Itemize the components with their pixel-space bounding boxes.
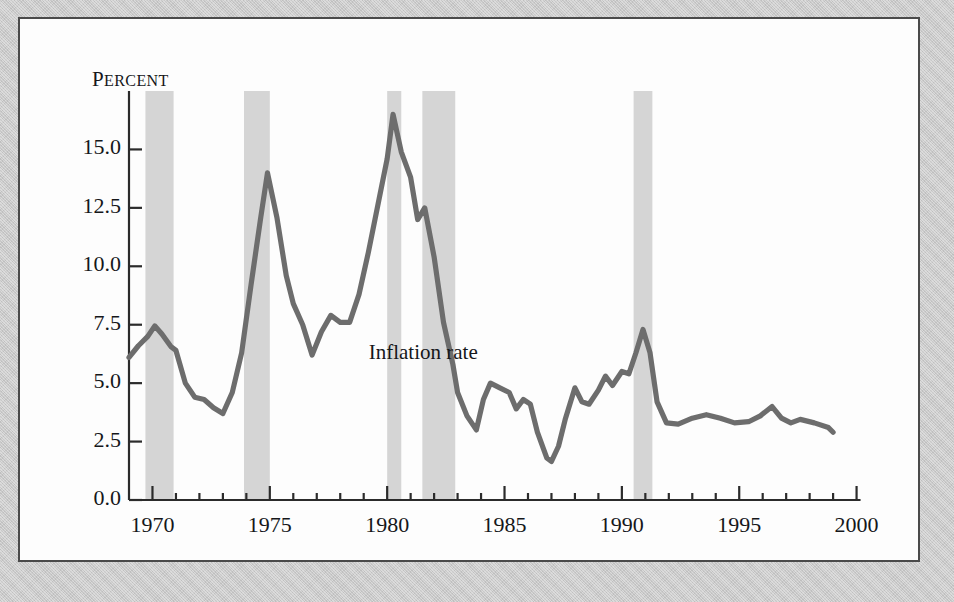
x-axis-tick-label: 1970: [107, 512, 197, 538]
recession-band: [634, 91, 653, 500]
figure-plate: PERCENT 0.02.55.07.510.012.515.0 1970197…: [18, 17, 920, 562]
y-axis-tick-label: 10.0: [57, 251, 121, 277]
plot-canvas: [20, 19, 922, 564]
series-annotation-inflation-rate: Inflation rate: [369, 340, 478, 365]
recession-band: [145, 91, 173, 500]
y-axis-tick-label: 2.5: [57, 427, 121, 453]
y-axis-tick-label: 7.5: [57, 310, 121, 336]
x-axis-tick-label: 1995: [694, 512, 784, 538]
inflation-rate-chart: PERCENT 0.02.55.07.510.012.515.0 1970197…: [20, 19, 922, 564]
y-axis-tick-label: 0.0: [57, 485, 121, 511]
x-axis-tick-label: 2000: [812, 512, 902, 538]
x-axis-tick-label: 1990: [577, 512, 667, 538]
x-axis-tick-label: 1980: [342, 512, 432, 538]
y-axis-tick-label: 12.5: [57, 193, 121, 219]
y-axis-tick-label: 5.0: [57, 368, 121, 394]
y-axis-tick-label: 15.0: [57, 134, 121, 160]
x-axis-tick-label: 1975: [225, 512, 315, 538]
inflation-rate-line: [129, 114, 833, 461]
figure-frame: PERCENT 0.02.55.07.510.012.515.0 1970197…: [0, 0, 954, 602]
x-axis-tick-label: 1985: [460, 512, 550, 538]
